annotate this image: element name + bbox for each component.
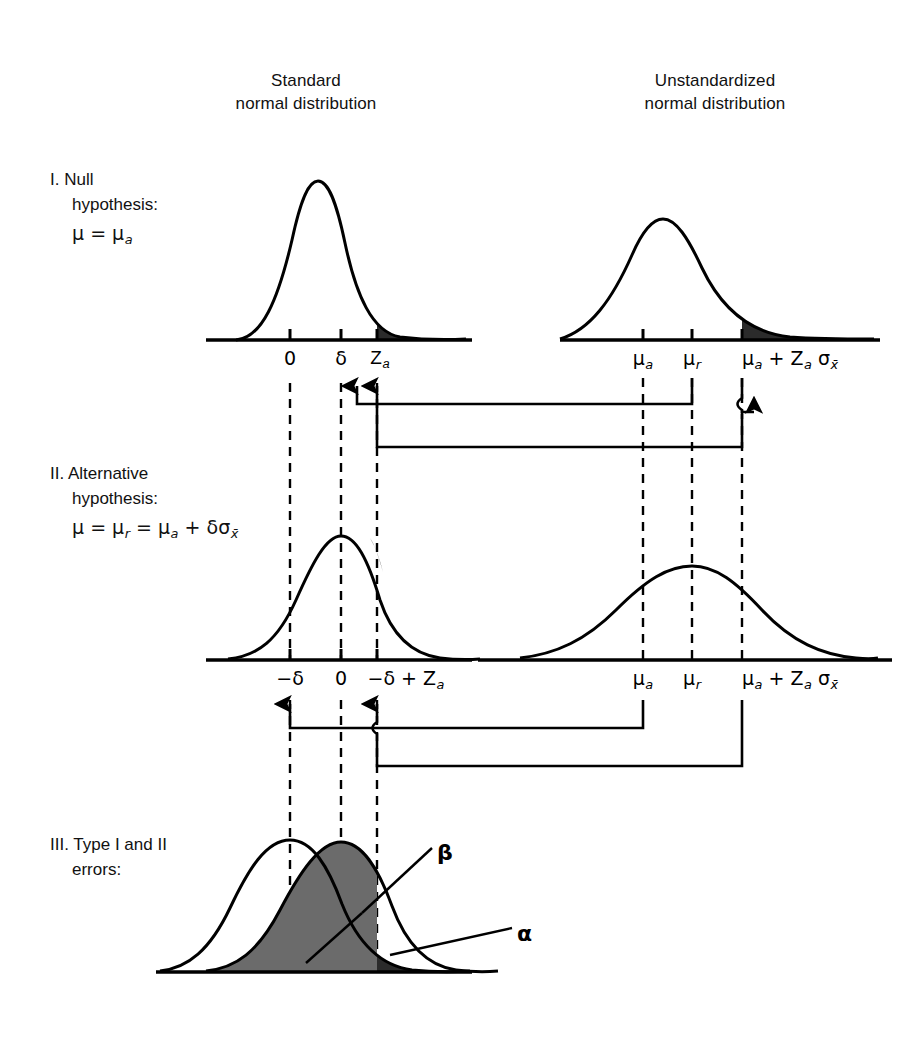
panel-row-ii-unstandardized [478, 566, 892, 660]
connectors-row-i-to-row-ii [357, 378, 754, 447]
panel-row-ii-standard [206, 536, 480, 660]
shaded-alpha-tail-row-i-right [560, 219, 874, 340]
hypothesis-testing-figure: Standard normal distribution Unstandardi… [0, 0, 912, 1056]
guide-lines-right [643, 378, 742, 660]
curve-row-i-right [560, 219, 874, 339]
panel-row-i-unstandardized [560, 219, 880, 340]
curve-row-ii-left [228, 536, 480, 660]
connector-mu-a-to-neg-delta [290, 700, 643, 728]
diagram-canvas [0, 0, 912, 1056]
shaded-alpha-tail-row-i-left [236, 181, 466, 340]
curve-row-ii-right [520, 566, 878, 659]
connector-critical-to-critical [738, 378, 755, 412]
connectors-row-ii-to-row-iii [290, 700, 742, 766]
leader-line-alpha [390, 928, 512, 955]
panel-row-i-standard [206, 181, 472, 340]
connector-critical-to-critical-2 [373, 700, 743, 766]
connector-critical-to-critical-run [377, 386, 742, 447]
panel-row-iii-errors [156, 840, 512, 972]
connector-mu-r-to-zero [357, 378, 692, 404]
curve-row-i-left [236, 181, 466, 340]
